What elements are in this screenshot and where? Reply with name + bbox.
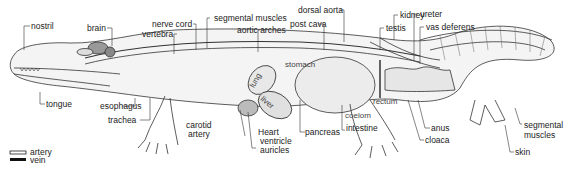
label-artery: artery [188, 130, 210, 139]
label-segmental-muscles-top: segmental muscles [214, 14, 287, 23]
label-coelom: coelom [345, 111, 371, 120]
label-cloaca: cloaca [425, 136, 450, 145]
label-stomach: stomach [285, 60, 315, 69]
label-brain: brain [87, 24, 106, 33]
label-esophagus: esophagus [100, 102, 142, 111]
label-pancreas: pancreas [305, 128, 340, 137]
label-segmental-tail: segmental [524, 121, 563, 130]
label-nerve-cord: nerve cord [152, 20, 192, 29]
label-intestine: intestine [346, 124, 378, 133]
label-testis: testis [386, 24, 406, 33]
label-ureter: ureter [420, 10, 442, 19]
label-nostril: nostril [31, 22, 54, 31]
legend-vein: vein [30, 156, 46, 165]
label-trachea: trachea [108, 116, 136, 125]
label-skin: skin [515, 148, 530, 157]
label-rectum: rectum [373, 97, 397, 106]
label-vertebra: vertebra [142, 30, 173, 39]
label-post-cava: post cava [290, 20, 326, 29]
alligator-anatomy-diagram: nostril brain nerve cord vertebra segmen… [0, 0, 568, 172]
label-dorsal-aorta: dorsal aorta [298, 6, 343, 15]
legend-swatches [10, 151, 26, 161]
label-auricles: auricles [260, 146, 289, 155]
label-vas-deferens: vas deferens [426, 23, 475, 32]
label-aortic-arches: aortic arches [237, 26, 286, 35]
label-anus: anus [431, 124, 449, 133]
label-muscles-tail: muscles [524, 131, 555, 140]
label-tongue: tongue [46, 100, 72, 109]
